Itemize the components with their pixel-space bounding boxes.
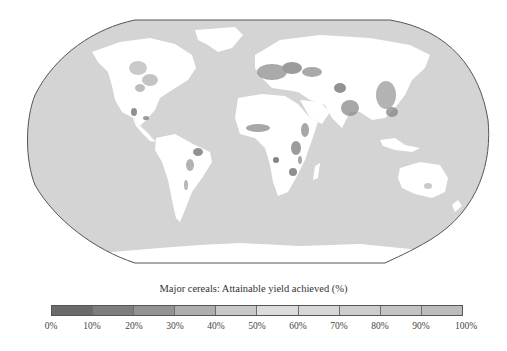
legend-bin bbox=[52, 306, 93, 315]
legend-bin bbox=[216, 306, 257, 315]
legend-tick: 10% bbox=[83, 321, 100, 331]
legend-bin bbox=[134, 306, 175, 315]
legend-tick: 70% bbox=[330, 321, 347, 331]
legend-tick: 100% bbox=[455, 321, 477, 331]
legend-bin bbox=[340, 306, 381, 315]
legend-tick: 0% bbox=[45, 321, 58, 331]
legend-tick: 30% bbox=[166, 321, 183, 331]
legend-tick: 40% bbox=[207, 321, 224, 331]
legend-tick: 60% bbox=[289, 321, 306, 331]
legend-bin bbox=[257, 306, 298, 315]
legend-bin bbox=[299, 306, 340, 315]
legend-bin bbox=[381, 306, 422, 315]
legend-bin bbox=[93, 306, 134, 315]
legend-bin bbox=[422, 306, 462, 315]
legend-tick: 20% bbox=[125, 321, 142, 331]
legend-tick-labels: 0% 10% 20% 30% 40% 50% 60% 70% 80% 90% 1… bbox=[0, 321, 507, 335]
legend-color-bar bbox=[51, 305, 463, 316]
legend-tick: 80% bbox=[371, 321, 388, 331]
legend-tick: 50% bbox=[248, 321, 265, 331]
legend-tick: 90% bbox=[412, 321, 429, 331]
world-map bbox=[0, 0, 507, 275]
legend-title: Major cereals: Attainable yield achieved… bbox=[0, 283, 507, 294]
legend-bin bbox=[175, 306, 216, 315]
